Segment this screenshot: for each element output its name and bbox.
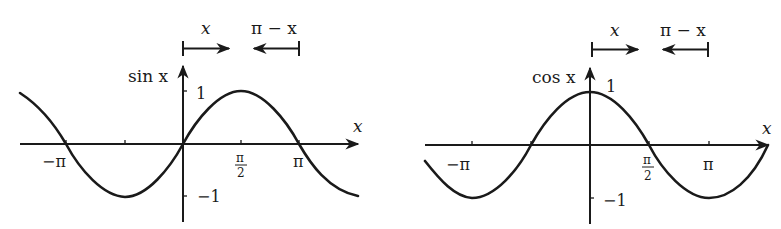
sin-chart: sin x x 1 −1 −π π π 2 x π − x [20, 18, 363, 222]
cos-label-one: 1 [606, 77, 616, 96]
cos-label-pi: π [703, 155, 714, 174]
cos-label-half-pi-num: π [643, 153, 651, 167]
sin-label-half-pi-num: π [236, 151, 244, 165]
cos-arrow-x-label: x [610, 20, 620, 40]
sin-label-half-pi-den: 2 [237, 166, 245, 180]
cos-arrow-pi-minus-x-label: π − x [660, 20, 706, 40]
sin-label-neg-pi: −π [42, 152, 66, 171]
sin-label-pi: π [293, 152, 304, 171]
cos-label-minus-one: −1 [603, 191, 627, 210]
sin-ylabel: sin x [128, 66, 169, 86]
sin-label-one: 1 [196, 84, 206, 103]
sin-arrow-pi-minus-x-label: π − x [251, 18, 297, 38]
figure: sin x x 1 −1 −π π π 2 x π − x cos x x 1 … [0, 0, 781, 229]
sin-xlabel: x [353, 116, 363, 136]
cos-label-half-pi-den: 2 [644, 169, 652, 183]
cos-xlabel: x [762, 118, 772, 138]
sin-label-minus-one: −1 [197, 187, 221, 206]
sin-arrow-x-label: x [201, 18, 211, 38]
cos-ylabel: cos x [532, 67, 576, 87]
cos-chart: cos x x 1 −1 −π π π 2 x π − x [425, 20, 772, 224]
cos-label-neg-pi: −π [446, 155, 470, 174]
